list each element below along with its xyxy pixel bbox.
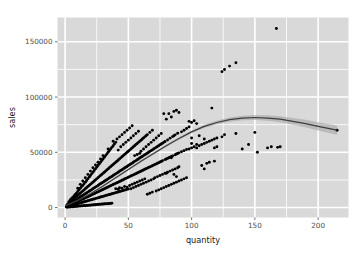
y-tick-label: 150000 (25, 37, 53, 46)
scatter-plot: 050100150200 050000100000150000 quantity… (0, 0, 364, 255)
x-tick-label: 0 (63, 221, 68, 230)
x-tick-label: 100 (185, 221, 199, 230)
x-tick-label: 200 (311, 221, 325, 230)
x-tick-label: 150 (248, 221, 262, 230)
y-tick-label: 100000 (25, 93, 53, 102)
y-axis-title: sales (7, 107, 17, 128)
x-tick-label: 50 (124, 221, 134, 230)
y-tick-label: 0 (48, 203, 53, 212)
x-axis-title: quantity (186, 235, 220, 245)
chart-figure: 050100150200 050000100000150000 quantity… (0, 0, 364, 255)
y-tick-label: 50000 (30, 148, 53, 157)
